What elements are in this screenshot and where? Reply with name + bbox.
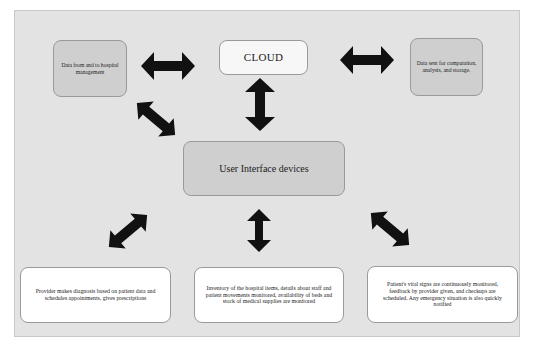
double-arrow-icon bbox=[340, 46, 394, 74]
ui-devices-label: User Interface devices bbox=[219, 163, 308, 175]
computation-storage-label: Data sent for computation, analysis, and… bbox=[415, 60, 478, 73]
hospital-management-node: Data from and to hospital management bbox=[53, 40, 127, 97]
double-arrow-icon bbox=[106, 211, 150, 251]
vital-signs-label: Patient's vital signs are continuously m… bbox=[378, 281, 507, 309]
cloud-node: CLOUD bbox=[219, 40, 308, 75]
provider-label: Provider makes diagnosis based on patien… bbox=[31, 288, 160, 302]
provider-node: Provider makes diagnosis based on patien… bbox=[20, 267, 171, 323]
cloud-label: CLOUD bbox=[244, 51, 283, 64]
double-arrow-icon bbox=[247, 209, 271, 252]
double-arrow-icon bbox=[369, 209, 411, 249]
inventory-label: Inventory of the hospital items, details… bbox=[205, 285, 333, 306]
double-arrow-icon bbox=[141, 52, 195, 80]
double-arrow-icon bbox=[135, 99, 177, 139]
hospital-management-label: Data from and to hospital management bbox=[58, 62, 122, 75]
inventory-node: Inventory of the hospital items, details… bbox=[194, 267, 344, 323]
computation-storage-node: Data sent for computation, analysis, and… bbox=[410, 38, 483, 96]
ui-devices-node: User Interface devices bbox=[183, 141, 345, 196]
vital-signs-node: Patient's vital signs are continuously m… bbox=[367, 266, 518, 323]
double-arrow-icon bbox=[245, 78, 275, 131]
